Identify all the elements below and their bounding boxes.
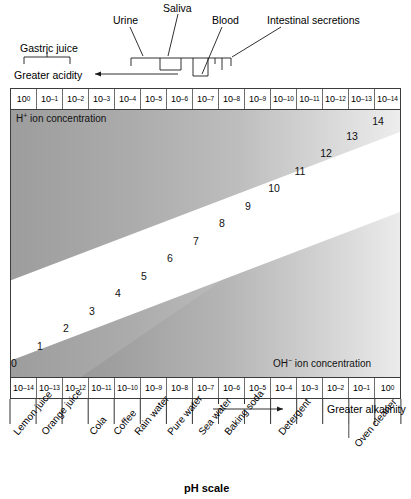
exp-base: 10 [249,94,259,104]
ph-number: 0 [11,357,17,369]
exp-base: 10 [197,94,207,104]
exp-cell: 10–3 [297,378,323,398]
exp-base: 10 [171,383,181,393]
top-exponent-row: 100 10–1 10–2 10–3 10–4 10–5 10–6 10–7 1… [10,88,401,110]
exp-cell: 10–5 [141,89,167,109]
leader-lines [47,14,281,74]
label-greater-acidity: Greater acidity [14,69,82,81]
h-ion-text: ion concentration [27,113,106,124]
label-gastric-juice: Gastric juice [20,42,78,54]
exp-cell: 10–2 [63,89,89,109]
exp-base: 10 [223,94,233,104]
exp-base: 10 [223,383,233,393]
oh-ion-symbol: OH [273,358,288,369]
ph-number: 5 [141,270,147,282]
exp-base: 10 [327,383,337,393]
h-ion-concentration-label: H+ ion concentration [16,113,106,124]
exp-cell: 10–9 [245,89,271,109]
ph-number: 7 [193,235,199,247]
bracket-main-bar [131,58,231,66]
exp-base: 10 [41,94,51,104]
ph-number: 3 [89,305,95,317]
exp-cell: 10–10 [271,89,297,109]
exp-cell: 10–3 [89,89,115,109]
ph-number: 11 [295,165,306,177]
ph-number: 14 [372,115,384,127]
label-saliva: Saliva [163,2,192,14]
exp-cell: 10–14 [11,378,37,398]
exp-base: 10 [67,94,77,104]
exp-cell: 10–1 [349,378,375,398]
exp-base: 10 [197,383,207,393]
exp-base: 10 [353,383,363,393]
exp-base: 10 [351,94,361,104]
exp-base: 10 [273,94,283,104]
exp-cell: 10–8 [219,89,245,109]
ph-number: 10 [268,182,280,194]
exp-cell: 10–11 [297,89,323,109]
bracket-blood [193,58,208,76]
exp-base: 10 [93,94,103,104]
chart-title: pH scale [184,482,229,494]
oh-ion-concentration-label: OH− ion concentration [273,358,371,369]
ph-number: 2 [63,322,69,334]
exp-base: 10 [301,383,311,393]
exp-cell: 10–12 [323,89,349,109]
exp-base: 10 [145,94,155,104]
exp-base: 10 [171,94,181,104]
bracket-intestinal [215,58,222,70]
exp-base: 10 [381,383,391,393]
ph-number: 12 [320,147,332,159]
exp-base: 10 [13,383,23,393]
exp-cell: 10–7 [193,89,219,109]
label-blood: Blood [212,14,239,26]
ph-number: 4 [115,287,121,299]
ph-scale-diagram: Gastric juice Urine Saliva Blood Intesti… [0,0,411,499]
exp-base: 10 [117,383,127,393]
exp-cell: 10–2 [323,378,349,398]
exp-base: 10 [377,94,387,104]
substance-label-cola: Cola [87,414,109,437]
exp-cell: 10–6 [219,378,245,398]
label-urine: Urine [113,14,138,26]
ph-number: 8 [219,217,225,229]
ph-number: 9 [245,200,251,212]
exp-cell: 10–13 [349,89,375,109]
exp-cell: 10–1 [37,89,63,109]
ph-number: 1 [37,340,43,352]
ph-number: 6 [167,252,173,264]
exp-base: 10 [275,383,285,393]
oh-ion-text: ion concentration [292,358,371,369]
exp-base: 10 [119,94,129,104]
exp-cell: 10–14 [375,89,400,109]
exp-cell: 10–10 [115,378,141,398]
exp-cell: 10–8 [167,378,193,398]
exp-base: 10 [145,383,155,393]
exp-base: 10 [325,94,335,104]
exp-cell: 10–4 [115,89,141,109]
bracket-saliva [160,58,181,70]
exp-cell: 100 [11,89,37,109]
exp-base: 10 [17,94,27,104]
exp-cell: 10–11 [89,378,115,398]
arrow-greater-acidity [95,72,178,77]
ph-gradient-body [10,110,401,377]
exp-cell: 10–6 [167,89,193,109]
substance-label-detergent: Detergent [276,396,313,437]
exp-base: 10 [299,94,309,104]
exp-base: 10 [91,383,101,393]
exp-cell: 10–4 [271,378,297,398]
exp-cell: 100 [375,378,400,398]
label-intestinal-secretions: Intestinal secretions [267,14,360,26]
ph-number: 13 [346,130,358,142]
